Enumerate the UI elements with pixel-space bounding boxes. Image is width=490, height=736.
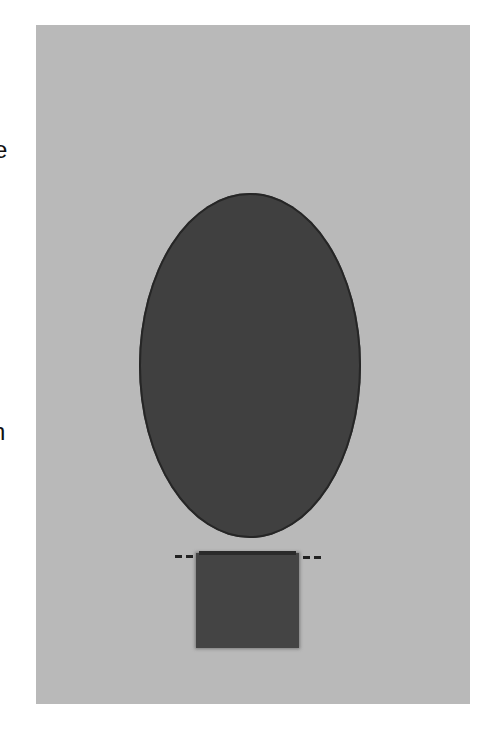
rectangle-top-edge — [199, 551, 296, 555]
dash-segment — [186, 555, 193, 558]
dash-segment — [303, 556, 310, 559]
dark-ellipse — [139, 193, 361, 538]
dark-rectangle — [196, 553, 299, 648]
dash-segment — [175, 555, 182, 558]
dash-segment — [314, 556, 321, 559]
edge-text-fragment-bottom: n — [0, 420, 5, 444]
edge-text-fragment-top: e — [0, 138, 7, 162]
